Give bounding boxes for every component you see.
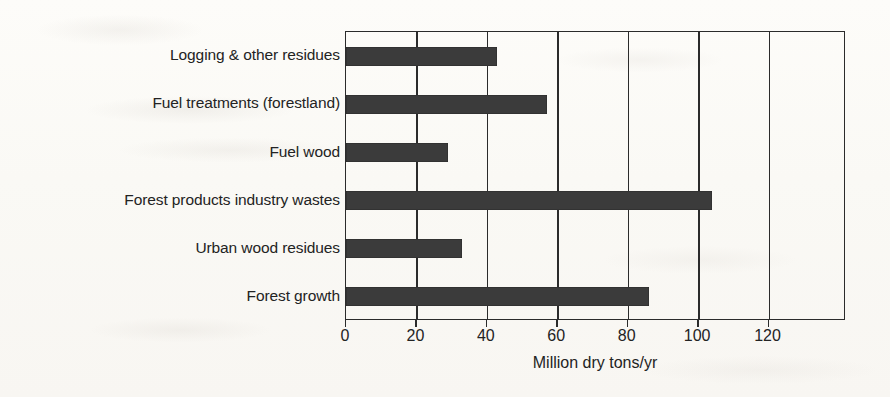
- tick-mark-120: [768, 320, 769, 327]
- bar: [346, 287, 649, 306]
- gridline-100: [698, 32, 699, 319]
- bar: [346, 191, 712, 210]
- tick-mark-0: [345, 320, 346, 327]
- gridline-120: [769, 32, 770, 319]
- category-axis: Logging & other residuesFuel treatments …: [0, 31, 343, 320]
- value-axis: 020406080100120: [345, 320, 845, 350]
- tick-mark-40: [486, 320, 487, 327]
- category-label: Urban wood residues: [195, 240, 343, 256]
- bar: [346, 239, 462, 258]
- bar: [346, 95, 547, 114]
- category-label: Forest products industry wastes: [124, 192, 343, 208]
- category-label-row: Fuel treatments (forestland): [0, 79, 343, 127]
- tick-mark-20: [415, 320, 416, 327]
- category-label-row: Forest products industry wastes: [0, 176, 343, 224]
- category-label: Fuel treatments (forestland): [152, 95, 343, 111]
- tick-label: 60: [547, 328, 565, 344]
- tick-label: 120: [754, 328, 781, 344]
- tick-label: 40: [477, 328, 495, 344]
- category-label-row: Forest growth: [0, 272, 343, 320]
- category-label: Forest growth: [247, 288, 343, 304]
- plot-area: [345, 31, 845, 320]
- tick-mark-60: [556, 320, 557, 327]
- tick-label: 0: [341, 328, 350, 344]
- gridline-60: [557, 32, 558, 319]
- gridline-20: [416, 32, 417, 319]
- tick-mark-100: [697, 320, 698, 327]
- category-label: Logging & other residues: [170, 47, 343, 63]
- x-axis-title: Million dry tons/yr: [345, 355, 845, 371]
- gridline-80: [628, 32, 629, 319]
- bar: [346, 47, 497, 66]
- tick-label: 20: [407, 328, 425, 344]
- tick-label: 100: [684, 328, 711, 344]
- gridline-40: [487, 32, 488, 319]
- bar-chart-figure: Logging & other residuesFuel treatments …: [0, 0, 890, 397]
- tick-mark-80: [627, 320, 628, 327]
- category-label-row: Fuel wood: [0, 127, 343, 175]
- tick-label: 80: [618, 328, 636, 344]
- category-label: Fuel wood: [269, 144, 343, 160]
- category-label-row: Logging & other residues: [0, 31, 343, 79]
- bar: [346, 143, 448, 162]
- category-label-row: Urban wood residues: [0, 224, 343, 272]
